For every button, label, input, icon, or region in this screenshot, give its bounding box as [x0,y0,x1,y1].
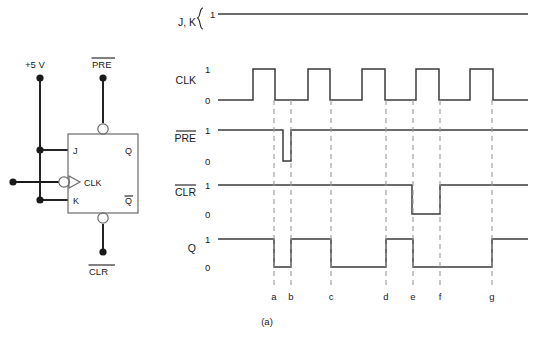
pin-label-q: Q [125,146,132,156]
jk-brace [197,8,203,29]
marker-label-f: f [439,291,442,302]
jk-level-high: 1 [210,9,215,20]
pin-label-j: J [73,146,78,156]
clk-dynamic-triangle [69,176,80,188]
marker-lines [274,100,492,285]
marker-label-g: g [489,291,494,302]
q-level-low: 0 [205,262,210,273]
timing-label-clr: CLR [175,186,196,198]
marker-label-b: b [288,291,293,302]
clk-level-low: 0 [205,95,210,106]
marker-label-e: e [410,291,415,302]
clk-inversion-bubble [59,177,69,187]
clear-label: CLR [89,266,108,277]
figure-svg: J K CLK Q Q +5 V PRE CLR J, K 1 CLK 1 0 … [0,0,535,341]
pin-label-clk: CLK [84,178,102,188]
figure-caption: (a) [261,316,273,327]
waveform-clk [218,69,528,100]
q-level-high: 1 [205,234,210,245]
marker-label-a: a [271,291,277,302]
waveform-pre [218,130,528,161]
timing-label-pre: PRE [174,132,196,144]
supply-label: +5 V [25,59,45,70]
waveform-q [218,239,528,267]
marker-label-c: c [329,291,334,302]
timing-label-q: Q [188,242,196,254]
clr-level-high: 1 [205,180,210,191]
waveform-clr [218,185,528,214]
pin-label-qbar: Q [125,196,132,206]
pin-label-k: K [73,196,79,206]
circuit-diagram: J K CLK Q Q +5 V PRE CLR [9,58,138,277]
preset-label: PRE [92,59,112,70]
timing-label-jk: J, K [178,16,196,28]
preset-inversion-bubble [98,124,108,134]
clr-level-low: 0 [205,209,210,220]
figure-root: J K CLK Q Q +5 V PRE CLR J, K 1 CLK 1 0 … [0,0,535,341]
timing-diagram: J, K 1 CLK 1 0 PRE 1 0 CLR 1 0 Q 1 0 [174,8,528,327]
pre-level-low: 0 [205,156,210,167]
marker-labels: a b c d e f g [271,291,494,302]
clk-level-high: 1 [205,64,210,75]
timing-label-clk: CLK [176,74,196,86]
pre-level-high: 1 [205,125,210,136]
marker-label-d: d [383,291,388,302]
clear-inversion-bubble [98,213,108,223]
